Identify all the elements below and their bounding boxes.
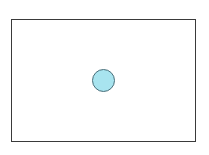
circle-shape: [92, 69, 115, 92]
